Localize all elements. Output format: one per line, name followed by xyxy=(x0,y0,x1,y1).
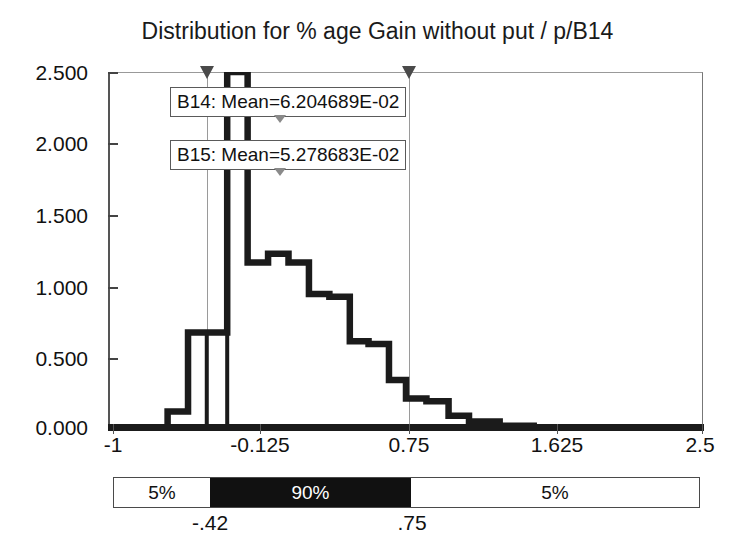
series-outline-b15 xyxy=(108,72,704,430)
y-tick-label-3: 1.500 xyxy=(18,205,88,226)
percentile-boundary-lower-label: -.42 xyxy=(192,512,228,533)
b14-mean-label: B14: Mean=6.204689E-02 xyxy=(170,87,406,117)
b15-mean-caret xyxy=(274,168,286,176)
percentile-segment-lower[interactable]: 5% xyxy=(114,478,210,507)
percentile-boundary-upper-label: .75 xyxy=(397,512,426,533)
b14-mean-caret xyxy=(274,115,286,123)
y-tick-label-2: 1.000 xyxy=(18,277,88,298)
y-tick-label-1: 0.500 xyxy=(18,348,88,369)
percentile-segment-upper[interactable]: 5% xyxy=(411,478,699,507)
x-tick-label-4: 2.5 xyxy=(685,434,714,455)
x-axis-baseline xyxy=(108,424,704,431)
b15-mean-label: B15: Mean=5.278683E-02 xyxy=(170,140,406,170)
left-marker-triangle[interactable] xyxy=(200,66,214,79)
right-marker-triangle[interactable] xyxy=(402,66,416,79)
series-outline-b14 xyxy=(108,72,704,430)
x-tick-label-3: 1.625 xyxy=(531,434,584,455)
chart-title: Distribution for % age Gain without put … xyxy=(0,18,755,45)
y-tick-label-4: 2.000 xyxy=(18,133,88,154)
percentile-segment-middle[interactable]: 90% xyxy=(210,478,411,507)
distribution-chart: Distribution for % age Gain without put … xyxy=(0,0,755,553)
x-tick-label-1: -0.125 xyxy=(230,434,290,455)
x-tick-label-2: 0.75 xyxy=(389,434,430,455)
x-tick-label-0: -1 xyxy=(104,434,123,455)
y-tick-label-5: 2.500 xyxy=(18,62,88,83)
histogram-outlines xyxy=(108,72,704,430)
percentile-bar[interactable]: 5% 90% 5% xyxy=(113,477,700,508)
y-tick-label-0: 0.000 xyxy=(18,417,88,438)
